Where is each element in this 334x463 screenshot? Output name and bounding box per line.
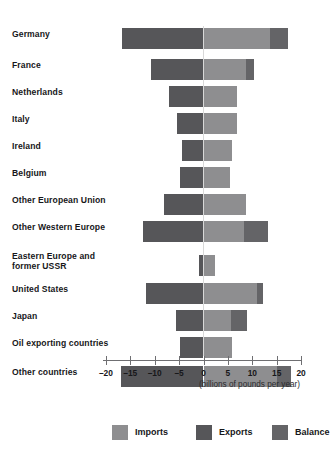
bar-segment-exports — [151, 59, 204, 80]
x-axis-tick-label: 15 — [264, 368, 290, 378]
bar-segment-exports — [180, 167, 203, 188]
category-label: Other European Union — [12, 190, 120, 211]
x-axis-tick-label: 5 — [215, 368, 241, 378]
x-axis-caption: (billions of pounds per year) — [199, 380, 300, 389]
legend-label: Balance — [295, 427, 330, 437]
bar-segment-imports — [204, 255, 216, 276]
chart-legend: ImportsExportsBalance — [0, 424, 334, 446]
category-label: Eastern Europe and former USSR — [12, 251, 120, 272]
bar-segment-imports — [204, 113, 238, 134]
x-axis-tick-label: 10 — [239, 368, 265, 378]
x-axis-tick — [179, 356, 180, 365]
bar-segment-exports — [176, 310, 203, 331]
category-label: Japan — [12, 306, 120, 327]
x-axis-tick-label: –10 — [142, 368, 168, 378]
bar-segment-exports — [122, 28, 203, 49]
bar-segment-imports — [204, 86, 237, 107]
legend-swatch — [196, 425, 212, 440]
bar-segment-balance — [270, 28, 288, 49]
category-label: United States — [12, 279, 120, 300]
category-label: Italy — [12, 109, 120, 130]
bar-segment-imports — [204, 140, 233, 161]
bar-segment-imports — [204, 337, 232, 358]
bar-segment-exports — [182, 140, 203, 161]
bar-segment-balance — [257, 283, 263, 304]
category-label: Other countries — [12, 362, 120, 383]
legend-swatch — [112, 425, 128, 440]
bar-segment-exports — [169, 86, 203, 107]
category-label: Germany — [12, 24, 120, 45]
x-axis-tick — [155, 356, 156, 365]
bar-segment-exports — [180, 337, 203, 358]
x-axis-tick — [228, 356, 229, 365]
category-label: France — [12, 55, 120, 76]
legend-item: Exports — [196, 424, 253, 440]
category-label: Belgium — [12, 163, 120, 184]
bar-segment-imports — [204, 167, 231, 188]
legend-label: Exports — [219, 427, 253, 437]
category-label: Oil exporting countries — [12, 333, 120, 354]
x-axis-tick — [130, 356, 131, 365]
bar-segment-imports — [204, 283, 264, 304]
legend-label: Imports — [135, 427, 168, 437]
x-axis-tick-label: 0 — [191, 368, 217, 378]
bar-segment-exports — [146, 283, 203, 304]
x-axis-tick — [301, 356, 302, 365]
bar-segment-balance — [246, 59, 254, 80]
category-label: Ireland — [12, 136, 120, 157]
bar-segment-exports — [143, 221, 204, 242]
bar-segment-exports — [164, 194, 203, 215]
x-axis-tick — [204, 356, 205, 365]
x-axis-tick-label: –5 — [166, 368, 192, 378]
legend-swatch — [272, 425, 288, 440]
bar-segment-imports — [204, 194, 247, 215]
bar-segment-balance — [231, 310, 248, 331]
x-axis-tick-label: –15 — [117, 368, 143, 378]
trade-balance-bar-chart: –20–15–10–505101520 (billions of pounds … — [0, 0, 334, 463]
x-axis-tick — [252, 356, 253, 365]
legend-item: Balance — [272, 424, 330, 440]
category-label: Netherlands — [12, 82, 120, 103]
x-axis-line — [103, 360, 301, 361]
bar-segment-exports — [177, 113, 204, 134]
x-axis-tick-label: 20 — [288, 368, 314, 378]
bar-segment-balance — [244, 221, 267, 242]
legend-item: Imports — [112, 424, 168, 440]
category-label: Other Western Europe — [12, 217, 120, 238]
x-axis-tick — [277, 356, 278, 365]
